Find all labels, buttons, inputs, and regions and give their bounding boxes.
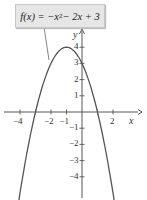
y-tick-label: 3 bbox=[74, 58, 79, 67]
function-label: f(x) = −x2 − 2x + 3 bbox=[15, 4, 105, 28]
y-tick-label: −3 bbox=[69, 156, 79, 165]
y-axis-label: y bbox=[73, 29, 77, 40]
y-tick-label: 1 bbox=[74, 91, 79, 100]
y-tick-label: −4 bbox=[69, 172, 79, 181]
x-tick-label: −4 bbox=[13, 117, 23, 126]
x-tick-label: 2 bbox=[110, 117, 115, 126]
function-label-suffix: − 2x + 3 bbox=[62, 11, 99, 22]
y-tick-label: −1 bbox=[69, 123, 79, 132]
function-label-prefix: f(x) = −x bbox=[20, 11, 59, 22]
x-axis-label: x bbox=[129, 115, 133, 126]
x-tick-label: −2 bbox=[44, 117, 54, 126]
y-tick-label: 2 bbox=[74, 75, 79, 84]
x-tick-label: −1 bbox=[60, 117, 70, 126]
y-tick-label: 4 bbox=[74, 42, 79, 51]
y-tick-label: −2 bbox=[69, 139, 79, 148]
label-pointer-line bbox=[44, 27, 49, 60]
